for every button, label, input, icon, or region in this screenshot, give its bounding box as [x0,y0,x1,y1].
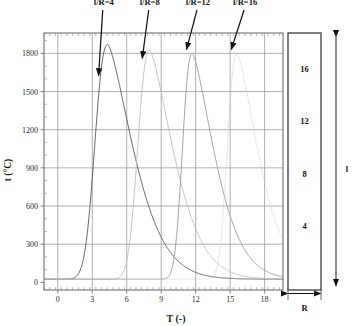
x-tick-label: 0 [56,295,60,304]
radius-dimension-label: R [301,303,308,313]
rod-segment-label-12: 12 [300,116,309,126]
rod-segment-label-8: 8 [302,169,306,179]
x-tick-label: 3 [90,295,94,304]
y-tick-label: 1500 [22,88,38,97]
series-annotation-label-3: l/R=16 [233,0,257,7]
x-tick-label: 18 [261,295,269,304]
x-tick-label: 6 [125,295,129,304]
chart-canvas: 03691215180300600900120015001800 T (-) t… [0,0,352,326]
plot-area: 03691215180300600900120015001800 [22,33,283,304]
y-tick-label: 600 [26,202,38,211]
y-tick-label: 1200 [22,126,38,135]
x-tick-label: 15 [226,295,234,304]
y-axis-title: t (°C) [3,159,14,182]
x-axis-title: T (-) [167,313,186,325]
chart-figure: 03691215180300600900120015001800 T (-) t… [0,0,352,326]
y-tick-label: 300 [26,240,38,249]
series-annotation-label-1: l/R=8 [140,0,160,7]
y-tick-label: 1800 [22,49,38,58]
series-annotation-label-0: l/R=4 [94,0,115,7]
rod-segment-label-16: 16 [300,64,309,74]
plot-background [44,33,283,290]
x-tick-label: 9 [159,295,163,304]
y-tick-label: 900 [26,164,38,173]
y-tick-label: 0 [34,278,38,287]
series-annotation-label-2: l/R=12 [186,0,210,7]
x-tick-label: 12 [192,295,200,304]
